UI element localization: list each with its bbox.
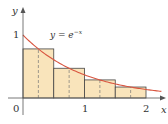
y-axis-arrow-icon bbox=[21, 7, 26, 13]
riemann-sum-diagram: y x 0 1 2 1 y = e−x bbox=[0, 0, 168, 124]
tick-label-x2: 2 bbox=[143, 103, 149, 114]
tick-label-origin: 0 bbox=[13, 103, 19, 114]
function-label: y = e−x bbox=[49, 28, 83, 40]
midpoint-rectangles bbox=[23, 49, 146, 98]
x-axis-label: x bbox=[161, 104, 167, 115]
tick-label-y1: 1 bbox=[13, 29, 19, 40]
x-axis-arrow-icon bbox=[160, 96, 166, 101]
tick-label-x1: 1 bbox=[82, 103, 88, 114]
y-axis-label: y bbox=[11, 5, 18, 16]
